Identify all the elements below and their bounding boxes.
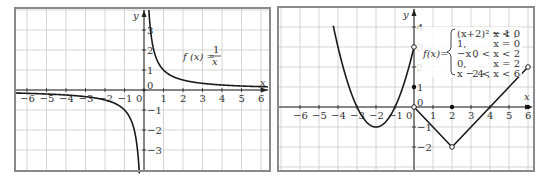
piecewise-function-chart: xy−6−5−4−3−2−1012345643210−1−2f(x)=(x+2)…: [278, 7, 534, 171]
charts-canvas: xy−6−5−4−3−2−101234563210−1−2−3f (x) =1x…: [0, 0, 548, 180]
y-tick-label: 0: [147, 80, 153, 91]
open-point: [412, 105, 417, 110]
closed-point: [526, 105, 530, 109]
x-tick-label: 2: [449, 110, 455, 121]
x-tick-label: −4: [331, 110, 346, 121]
svg-text:f(x)=: f(x)=: [422, 48, 449, 59]
x-tick-label: 4: [219, 93, 225, 104]
x-tick-label: −5: [312, 110, 327, 121]
x-tick-label: 0: [136, 93, 142, 104]
x-tick-label: 6: [258, 93, 264, 104]
x-tick-label: 2: [180, 93, 186, 104]
x-tick-label: −2: [369, 110, 384, 121]
open-point: [526, 65, 531, 70]
x-tick-label: 3: [468, 110, 474, 121]
y-tick-label: −2: [417, 142, 432, 153]
y-tick-label: −1: [147, 105, 162, 116]
x-tick-label: −6: [293, 110, 308, 121]
x-tick-label: −1: [118, 93, 133, 104]
svg-text:f (x) =: f (x) =: [182, 51, 215, 62]
reciprocal-function-chart: xy−6−5−4−3−2−101234563210−1−2−3f (x) =1x: [15, 8, 270, 173]
x-tick-label: 5: [506, 110, 512, 121]
x-tick-label: 3: [200, 93, 206, 104]
x-tick-label: 4: [487, 110, 493, 121]
closed-point: [450, 105, 454, 109]
x-tick-label: 1: [161, 93, 167, 104]
x-axis-label: x: [524, 91, 530, 102]
y-tick-label: −3: [147, 145, 162, 156]
closed-point: [412, 85, 416, 89]
svg-text:x: x: [212, 56, 218, 67]
piecewise-formula-label: f(x)=(x+2)² − 1 ,x < 01,x = 0−x ,0 < x <…: [418, 27, 522, 79]
y-axis-label: y: [402, 9, 409, 20]
x-tick-label: −3: [79, 93, 94, 104]
x-tick-label: 1: [430, 110, 436, 121]
x-tick-label: 5: [239, 93, 245, 104]
case-condition: 2 < x < 6: [472, 68, 520, 79]
x-tick-label: 6: [525, 110, 531, 121]
svg-text:1: 1: [213, 44, 219, 55]
y-tick-label: 0: [417, 97, 423, 108]
open-point: [450, 145, 455, 150]
y-tick-label: −2: [147, 125, 162, 136]
x-tick-label: −6: [20, 93, 35, 104]
y-axis-label: y: [132, 10, 139, 21]
open-point: [412, 45, 417, 50]
x-tick-label: 0: [406, 110, 412, 121]
y-tick-label: 1: [147, 65, 153, 76]
y-tick-label: 1: [417, 82, 423, 93]
